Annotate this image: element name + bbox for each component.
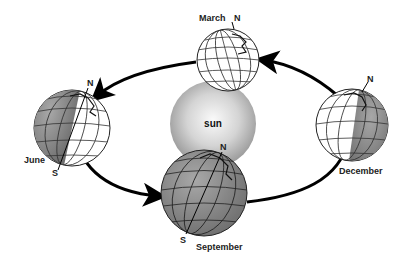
axis-line: [232, 22, 234, 29]
globe-june-label: June: [24, 155, 45, 165]
globe-march-label: March: [199, 13, 226, 23]
south-label: S: [180, 235, 186, 245]
seasons-diagram: sun March N: [0, 0, 409, 264]
north-label: N: [234, 13, 241, 23]
south-label: S: [52, 168, 58, 178]
globe-september-label: September: [196, 242, 243, 252]
north-label: N: [367, 74, 374, 84]
arrow-march-to-june: [97, 62, 196, 96]
sun-label: sun: [204, 118, 222, 129]
north-label: N: [87, 78, 94, 88]
north-label: N: [220, 142, 227, 152]
globe-december-label: December: [339, 166, 383, 176]
arrow-december-to-march: [264, 60, 338, 96]
globe-june: N S June: [21, 77, 110, 178]
